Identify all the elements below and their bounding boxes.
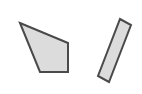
diagram-canvas — [0, 0, 142, 94]
rotated-rectangle-shape — [98, 19, 131, 82]
quadrilateral-shape — [20, 23, 68, 72]
